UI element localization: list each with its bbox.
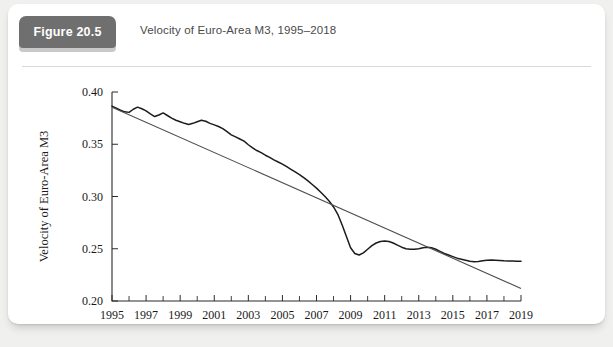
y-tick-label: 0.35 — [82, 137, 103, 151]
y-tick-label: 0.30 — [82, 190, 103, 204]
x-tick-label: 2013 — [407, 308, 431, 322]
x-tick-label: 2001 — [202, 308, 226, 322]
x-axis-ticks: 1995199719992001200320052007200920112013… — [100, 295, 533, 322]
axis-spines — [112, 92, 521, 301]
velocity-line-chart: 0.200.250.300.350.40 1995199719992001200… — [8, 60, 605, 324]
y-axis-label: Velocity of Euro-Area M3 — [37, 131, 51, 263]
figure-card: Figure 20.5 Velocity of Euro-Area M3, 19… — [8, 4, 605, 324]
y-tick-label: 0.20 — [82, 294, 103, 308]
x-tick-label: 2019 — [509, 308, 533, 322]
y-axis-ticks: 0.200.250.300.350.40 — [82, 85, 118, 308]
chart-plot-area: 0.200.250.300.350.40 1995199719992001200… — [8, 60, 605, 324]
y-tick-label: 0.40 — [82, 85, 103, 99]
figure-header: Figure 20.5 Velocity of Euro-Area M3, 19… — [8, 4, 605, 60]
x-tick-label: 2017 — [475, 308, 499, 322]
x-tick-label: 2005 — [270, 308, 294, 322]
x-tick-label: 2009 — [339, 308, 363, 322]
axis-lines — [112, 92, 521, 301]
x-tick-label: 1999 — [168, 308, 192, 322]
figure-title: Velocity of Euro-Area M3, 1995–2018 — [140, 24, 336, 36]
page-root: Figure 20.5 Velocity of Euro-Area M3, 19… — [0, 0, 613, 347]
data-series-group — [112, 106, 521, 288]
x-tick-label: 2003 — [236, 308, 260, 322]
figure-number-badge: Figure 20.5 — [19, 16, 116, 48]
y-axis-title: Velocity of Euro-Area M3 — [37, 131, 51, 263]
x-tick-label: 2007 — [305, 308, 329, 322]
trend-line-path — [112, 107, 521, 288]
y-tick-label: 0.25 — [82, 242, 103, 256]
velocity-line-path — [112, 106, 521, 262]
x-tick-label: 1997 — [134, 308, 158, 322]
figure-number-label: Figure 20.5 — [33, 25, 101, 39]
x-tick-label: 1995 — [100, 308, 124, 322]
x-tick-label: 2011 — [373, 308, 397, 322]
x-tick-label: 2015 — [441, 308, 465, 322]
